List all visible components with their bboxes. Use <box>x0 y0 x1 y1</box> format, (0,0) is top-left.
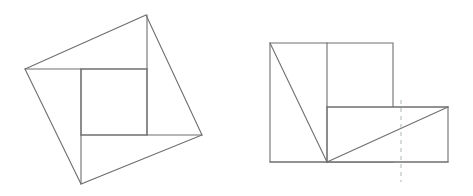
tilted-square-outline <box>25 15 202 184</box>
geometry-figure-svg <box>0 0 473 196</box>
figure-canvas <box>0 0 473 196</box>
tilted-square-panel <box>25 15 202 184</box>
rearranged-rectangles-panel <box>270 43 448 182</box>
